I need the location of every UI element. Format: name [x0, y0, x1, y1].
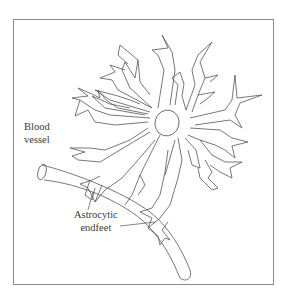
blood-vessel-label: Blood vessel: [24, 120, 50, 146]
nucleus: [152, 107, 182, 138]
astrocyte-diagram: [0, 0, 285, 299]
endfeet-label: Astrocytic endfeet: [74, 208, 118, 234]
blood-vessel-label-line1: Blood: [24, 120, 50, 133]
endfeet-label-line1: Astrocytic: [74, 208, 118, 221]
blood-vessel-label-line2: vessel: [24, 133, 50, 146]
endfeet-label-line2: endfeet: [74, 221, 118, 234]
